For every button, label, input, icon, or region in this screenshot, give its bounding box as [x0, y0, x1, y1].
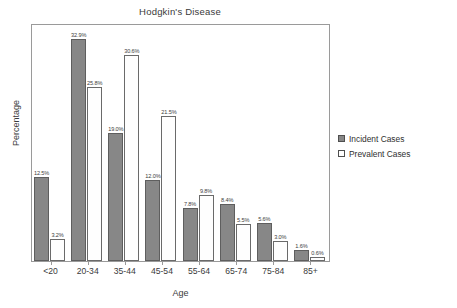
bar-prevalent[interactable] [199, 195, 214, 261]
x-axis-tick-label: <20 [32, 266, 69, 276]
bar-group: 19.0%30.6% [106, 25, 143, 261]
bar-value-label: 12.5% [29, 170, 54, 176]
bar-incident[interactable] [220, 204, 235, 261]
x-axis-tick [273, 262, 274, 265]
bar-group: 12.0%21.5% [143, 25, 180, 261]
x-axis-tick [236, 262, 237, 265]
plot-area: 12.5%3.2%32.9%25.8%19.0%30.6%12.0%21.5%7… [32, 25, 329, 261]
x-axis-tick-label: 55-64 [181, 266, 218, 276]
bar-incident[interactable] [108, 133, 123, 261]
legend-label-prevalent: Prevalent Cases [349, 149, 410, 159]
bar-incident[interactable] [183, 208, 198, 261]
legend-swatch-prevalent-icon [338, 150, 345, 157]
bar-value-label: 3.2% [45, 232, 70, 238]
bar-prevalent[interactable] [236, 224, 251, 261]
bar-group: 8.4%5.5% [218, 25, 255, 261]
x-axis-tick-label: 75-84 [255, 266, 292, 276]
x-axis-title: Age [31, 288, 330, 298]
x-axis-tick [310, 262, 311, 265]
x-axis-tick-label: 85+ [292, 266, 329, 276]
legend-item-prevalent-cases[interactable]: Prevalent Cases [338, 148, 448, 159]
bar-prevalent[interactable] [124, 55, 139, 261]
y-axis-title: Percentage [11, 63, 21, 183]
x-axis-tick [199, 262, 200, 265]
x-axis-tick [88, 262, 89, 265]
bar-value-label: 30.6% [119, 48, 144, 54]
bar-prevalent[interactable] [310, 257, 325, 261]
bar-value-label: 9.8% [194, 188, 219, 194]
x-axis-tick [125, 262, 126, 265]
x-axis-tick-label: 65-74 [218, 266, 255, 276]
legend-swatch-incident-icon [338, 135, 345, 142]
bar-value-label: 8.4% [215, 197, 240, 203]
x-axis-tick-label: 20-34 [69, 266, 106, 276]
bar-value-label: 21.5% [156, 109, 181, 115]
x-axis-tick [51, 262, 52, 265]
x-axis-tick-label: 35-44 [106, 266, 143, 276]
bar-prevalent[interactable] [161, 116, 176, 261]
chart-page: Hodgkin's Disease Percentage 12.5%3.2%32… [0, 0, 457, 308]
bar-value-label: 1.6% [289, 243, 314, 249]
bar-prevalent[interactable] [87, 87, 102, 261]
bar-group: 1.6%0.6% [292, 25, 329, 261]
chart-title: Hodgkin's Disease [0, 6, 360, 17]
bar-group: 5.6%3.0% [255, 25, 292, 261]
x-axis-tick [162, 262, 163, 265]
bar-group: 7.8%9.8% [181, 25, 218, 261]
bar-group: 32.9%25.8% [69, 25, 106, 261]
bar-prevalent[interactable] [273, 241, 288, 261]
bar-incident[interactable] [257, 223, 272, 261]
chart-legend: Incident Cases Prevalent Cases [338, 133, 448, 163]
bar-value-label: 25.8% [82, 80, 107, 86]
bar-group: 12.5%3.2% [32, 25, 69, 261]
bar-incident[interactable] [34, 177, 49, 261]
x-axis-tick-label: 45-54 [143, 266, 180, 276]
bar-value-label: 3.0% [268, 234, 293, 240]
bar-value-label: 5.6% [252, 216, 277, 222]
legend-item-incident-cases[interactable]: Incident Cases [338, 133, 448, 144]
legend-label-incident: Incident Cases [349, 134, 404, 144]
bar-value-label: 0.6% [305, 250, 330, 256]
bar-prevalent[interactable] [50, 239, 65, 261]
bar-incident[interactable] [145, 180, 160, 261]
bar-value-label: 32.9% [66, 32, 91, 38]
bar-incident[interactable] [71, 39, 86, 261]
